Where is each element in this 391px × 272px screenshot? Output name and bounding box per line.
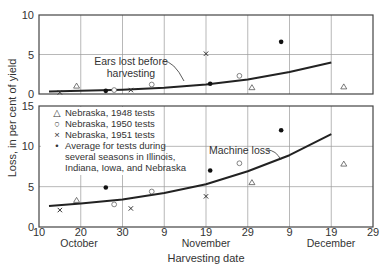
- month-label-december: December: [307, 237, 356, 249]
- legend-label-average-1: Average for tests during: [65, 140, 166, 151]
- trend-curve: [49, 62, 331, 91]
- annotation-ears-lost-line2: harvesting: [107, 67, 156, 79]
- marker-circle-icon: [149, 189, 154, 194]
- marker-triangle-icon: [341, 161, 347, 166]
- marker-triangle-icon: [74, 197, 80, 202]
- x-tick-label: 29: [367, 226, 379, 238]
- y-tick-label: 5: [28, 181, 34, 193]
- top-panel: 0510: [22, 9, 373, 100]
- legend-label-1951: Nebraska, 1951 tests: [65, 129, 155, 140]
- marker-triangle-icon: [249, 180, 255, 185]
- x-tick-label: 30: [116, 226, 128, 238]
- marker-dot-icon: [104, 89, 109, 94]
- marker-triangle-icon: [74, 83, 80, 88]
- legend-circle-icon: ○: [54, 118, 60, 129]
- legend-triangle-icon: △: [53, 107, 61, 118]
- month-label-november: November: [182, 237, 231, 249]
- x-tick-label: 29: [242, 226, 254, 238]
- marker-circle-icon: [112, 202, 117, 207]
- y-tick-label: 10: [22, 140, 34, 152]
- x-tick-label: 10: [33, 226, 45, 238]
- y-tick-label: 10: [22, 9, 34, 21]
- legend-label-1950: Nebraska, 1950 tests: [65, 118, 155, 129]
- legend: △ Nebraska, 1948 tests ○ Nebraska, 1950 …: [41, 107, 187, 175]
- x-tick-label: 9: [161, 226, 167, 238]
- marker-dot-icon: [104, 185, 109, 190]
- marker-x-icon: [58, 208, 62, 212]
- legend-label-average-3: Indiana, Iowa, and Nebraska: [65, 162, 187, 173]
- marker-circle-icon: [149, 82, 154, 87]
- marker-dot-icon: [208, 81, 213, 86]
- x-axis-title: Harvesting date: [167, 252, 244, 264]
- legend-x-icon: ×: [54, 129, 60, 140]
- y-axis-title: Loss, in per cent of yield: [6, 59, 18, 178]
- y-tick-label: 5: [28, 49, 34, 61]
- harvest-loss-chart: 0510 051015 Loss, in per cent of yield 1…: [0, 0, 391, 272]
- marker-triangle-icon: [341, 84, 347, 89]
- legend-label-1948: Nebraska, 1948 tests: [65, 107, 155, 118]
- marker-dot-icon: [279, 128, 284, 133]
- marker-circle-icon: [237, 73, 242, 78]
- marker-dot-icon: [279, 40, 284, 45]
- y-tick-label: 15: [22, 100, 34, 112]
- marker-circle-icon: [112, 88, 117, 93]
- annotation-machine-loss: Machine loss: [209, 144, 270, 156]
- marker-dot-icon: [208, 168, 213, 173]
- legend-label-average-2: several seasons in Illinois,: [65, 151, 175, 162]
- y-tick-label: 0: [28, 88, 34, 100]
- annotation-ears-lost-line1: Ears lost before: [94, 55, 168, 67]
- marker-x-icon: [129, 206, 133, 210]
- marker-triangle-icon: [249, 85, 255, 90]
- month-label-october: October: [60, 237, 98, 249]
- x-tick-label: 9: [286, 226, 292, 238]
- legend-dot-icon: •: [55, 140, 58, 151]
- marker-circle-icon: [237, 161, 242, 166]
